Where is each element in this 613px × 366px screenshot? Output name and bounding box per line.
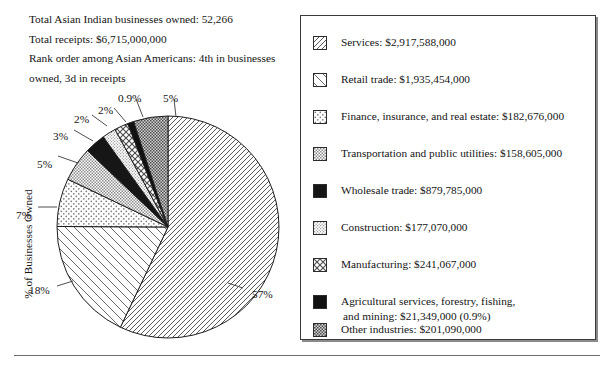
legend-item-label: Agricultural services, forestry, fishing… — [341, 294, 515, 323]
swatch-finance-insurance-real-estate-icon — [313, 110, 327, 124]
figure-root: Total Asian Indian businesses owned: 52,… — [0, 0, 613, 366]
pie-leader-line — [74, 130, 93, 141]
swatch-other-industries-icon — [313, 323, 327, 337]
pie-percentage-label: 2% — [98, 104, 113, 116]
swatch-services-icon — [313, 36, 327, 50]
pie-percentage-label: 18% — [29, 284, 50, 296]
pie-leader-line — [58, 156, 78, 163]
swatch-wholesale-trade-icon — [313, 184, 327, 198]
pie-leader-line — [114, 108, 126, 122]
pie-percentage-label: 57% — [252, 288, 273, 300]
legend-item: Construction: $177,070,000 — [313, 220, 591, 235]
legend-item-label: Wholesale trade: $879,785,000 — [341, 183, 482, 198]
legend-item: Services: $2,917,588,000 — [313, 35, 591, 50]
legend-item-label: Finance, insurance, and real estate: $18… — [341, 109, 564, 124]
legend-item-label: Construction: $177,070,000 — [341, 220, 467, 235]
pie-chart: 57%18%7%5%3%2%2%0.9%5% — [0, 0, 300, 366]
legend-item-label: Other industries: $201,090,000 — [341, 322, 482, 337]
pie-percentage-label: 5% — [37, 158, 52, 170]
pie-percentage-label: 5% — [163, 92, 178, 104]
legend-item: Retail trade: $1,935,454,000 — [313, 72, 591, 87]
legend-item: Manufacturing: $241,067,000 — [313, 257, 591, 272]
legend-item: Agricultural services, forestry, fishing… — [313, 294, 591, 323]
legend-item: Finance, insurance, and real estate: $18… — [313, 109, 591, 124]
swatch-agricultural-services-icon — [313, 295, 327, 309]
legend-item-label: Services: $2,917,588,000 — [341, 35, 456, 50]
legend-list: Services: $2,917,588,000Retail trade: $1… — [301, 16, 595, 339]
legend-item-label: Manufacturing: $241,067,000 — [341, 257, 476, 272]
legend-item-label: Retail trade: $1,935,454,000 — [341, 72, 470, 87]
swatch-retail-trade-icon — [313, 73, 327, 87]
pie-slice-group — [57, 116, 279, 338]
pie-leader-line — [92, 115, 107, 126]
legend-item-label: Transportation and public utilities: $15… — [341, 146, 562, 161]
pie-chart-svg — [0, 0, 300, 366]
bottom-divider — [14, 355, 600, 356]
pie-percentage-label: 3% — [53, 130, 68, 142]
legend-item: Transportation and public utilities: $15… — [313, 146, 591, 161]
swatch-manufacturing-icon — [313, 258, 327, 272]
swatch-construction-icon — [313, 221, 327, 235]
swatch-transportation-public-utilities-icon — [313, 147, 327, 161]
pie-percentage-label: 2% — [74, 113, 89, 125]
pie-percentage-label: 7% — [16, 209, 31, 221]
pie-percentage-label: 0.9% — [118, 92, 142, 104]
legend-item: Wholesale trade: $879,785,000 — [313, 183, 591, 198]
pie-leader-line — [57, 281, 73, 286]
legend-item-label-line2: and mining: $21,349,000 (0.9%) — [341, 309, 515, 324]
legend-item: Other industries: $201,090,000 — [313, 322, 591, 337]
legend-box: Services: $2,917,588,000Retail trade: $1… — [300, 15, 596, 340]
